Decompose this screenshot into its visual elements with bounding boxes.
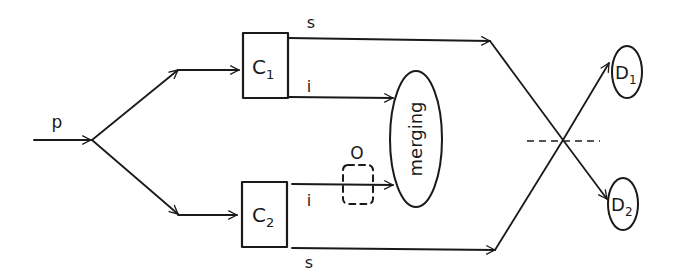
- split-up-arrow: [92, 70, 178, 140]
- pump-input: p: [34, 112, 91, 140]
- merging-label: merging: [405, 102, 426, 177]
- path-to-c2: [92, 140, 237, 215]
- beam-splitter: [490, 41, 609, 250]
- idler-top: i: [288, 77, 393, 98]
- crystal-c1: C1: [243, 33, 288, 98]
- path-to-c1: [92, 70, 239, 140]
- crystal-c1-label: C1: [252, 55, 274, 82]
- split-down-arrow: [92, 140, 178, 214]
- bs-to-d2-arrow: [563, 140, 607, 199]
- detector-d2-label: D2: [611, 194, 633, 219]
- signal-top: s: [288, 13, 490, 41]
- merging-element: merging: [390, 71, 442, 207]
- idler-bottom-label: i: [307, 191, 311, 210]
- idler-bottom: i O: [292, 143, 393, 210]
- idler-bottom-arrow: [292, 184, 393, 185]
- detector-d2: D2: [608, 178, 638, 230]
- signal-bottom-label: s: [305, 253, 313, 272]
- detector-d1: D1: [612, 46, 642, 98]
- crystal-c2: C2: [242, 182, 287, 247]
- detector-d1-label: D1: [615, 62, 637, 87]
- signal-top-arrow: [288, 38, 490, 41]
- bs-to-d1-arrow: [563, 63, 609, 140]
- object-label: O: [350, 143, 363, 163]
- signal-top-label: s: [307, 13, 315, 32]
- signal-bottom-arrow: [292, 248, 495, 250]
- idler-top-arrow: [288, 97, 393, 98]
- interferometer-diagram: p C1 C2 s i i O s: [0, 0, 677, 277]
- signal-bottom: s: [292, 248, 495, 272]
- signal-top-to-bs: [490, 41, 563, 140]
- idler-top-label: i: [307, 77, 311, 96]
- crystal-c2-label: C2: [252, 203, 274, 230]
- signal-bottom-to-bs: [495, 140, 563, 250]
- pump-label: p: [52, 112, 63, 132]
